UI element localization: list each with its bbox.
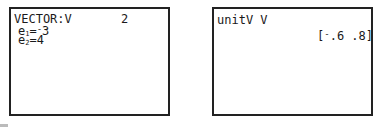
entry-value: 4 — [37, 33, 44, 47]
vector-entry-2[interactable]: e2=4 — [18, 34, 44, 49]
calculator-screen-home: unitV V [-.6 .8] — [212, 7, 373, 116]
result-line: [-.6 .8] — [317, 28, 373, 42]
command-line: unitV V — [217, 14, 268, 26]
calculator-screen-vector-editor: VECTOR:V 2 e1=-3 e2=4 — [9, 7, 170, 116]
vector-dimension[interactable]: 2 — [121, 13, 128, 25]
corner-mark — [0, 124, 8, 127]
